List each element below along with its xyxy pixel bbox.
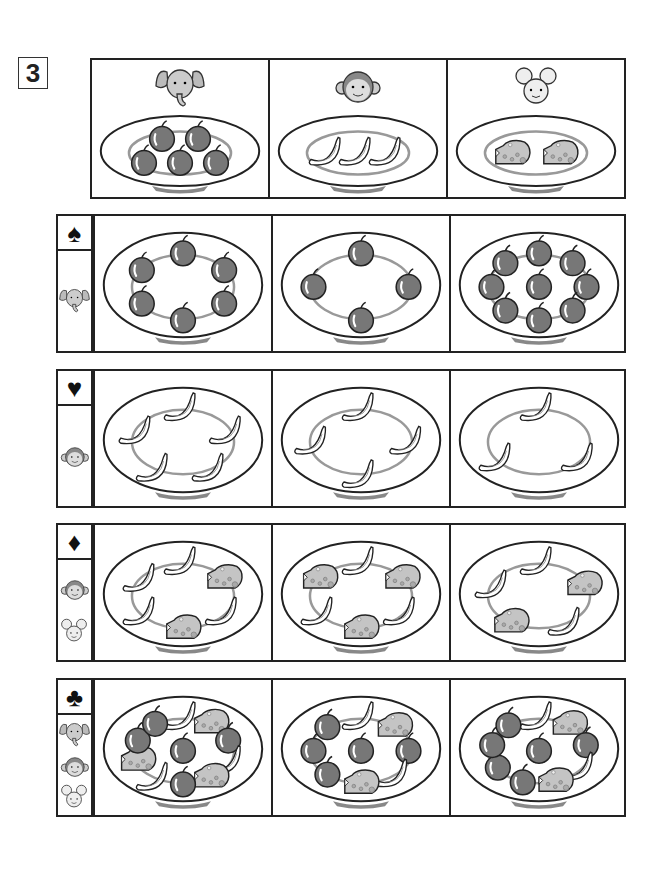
row-label-spade: ♠ — [58, 216, 93, 351]
question-number: 3 — [18, 57, 48, 89]
row-label-heart: ♥ — [58, 371, 93, 506]
reference-cell-elephant — [92, 60, 268, 197]
answer-plate-2[interactable] — [271, 216, 449, 351]
answer-row-spade: ♠ — [56, 214, 626, 353]
plate — [273, 525, 449, 659]
answer-plate-2[interactable] — [271, 680, 449, 815]
spade-suit-icon: ♠ — [58, 216, 91, 251]
elephant-icon — [59, 287, 90, 314]
answer-plate-3[interactable] — [449, 680, 627, 815]
row-label-diamond: ♦ — [58, 525, 93, 660]
plate — [95, 216, 271, 350]
plate — [451, 216, 627, 350]
answer-plate-1[interactable] — [93, 371, 271, 506]
row-animals — [58, 715, 91, 815]
plate — [273, 680, 449, 814]
elephant-icon — [59, 721, 90, 748]
plate — [92, 104, 268, 194]
answer-plate-1[interactable] — [93, 216, 271, 351]
mouse-icon — [61, 784, 87, 809]
monkey-icon — [334, 66, 382, 106]
plate — [95, 525, 271, 659]
plate — [273, 216, 449, 350]
diamond-suit-icon: ♦ — [58, 525, 91, 560]
answer-row-diamond: ♦ — [56, 523, 626, 662]
reference-cell-mouse — [446, 60, 624, 197]
plate — [273, 371, 449, 505]
answer-plate-3[interactable] — [449, 525, 627, 660]
plate — [448, 104, 624, 194]
row-animals — [58, 251, 91, 351]
reference-panel — [90, 58, 626, 199]
answer-plate-3[interactable] — [449, 371, 627, 506]
plate — [451, 525, 627, 659]
plate — [95, 371, 271, 505]
mouse-icon — [515, 66, 557, 106]
monkey-icon — [60, 754, 90, 779]
answer-row-heart: ♥ — [56, 369, 626, 508]
plate — [451, 680, 627, 814]
plate — [451, 371, 627, 505]
answer-plate-2[interactable] — [271, 371, 449, 506]
monkey-icon — [60, 577, 90, 602]
answer-plate-1[interactable] — [93, 680, 271, 815]
row-animals — [58, 560, 91, 660]
answer-row-club: ♣ — [56, 678, 626, 817]
answer-plate-2[interactable] — [271, 525, 449, 660]
answer-plate-3[interactable] — [449, 216, 627, 351]
plate — [95, 680, 271, 814]
answer-plate-1[interactable] — [93, 525, 271, 660]
row-animals — [58, 406, 91, 506]
plate — [270, 104, 446, 194]
club-suit-icon: ♣ — [58, 680, 91, 715]
row-label-club: ♣ — [58, 680, 93, 815]
reference-cell-monkey — [268, 60, 446, 197]
monkey-icon — [60, 444, 90, 469]
heart-suit-icon: ♥ — [58, 371, 91, 406]
mouse-icon — [61, 618, 87, 643]
